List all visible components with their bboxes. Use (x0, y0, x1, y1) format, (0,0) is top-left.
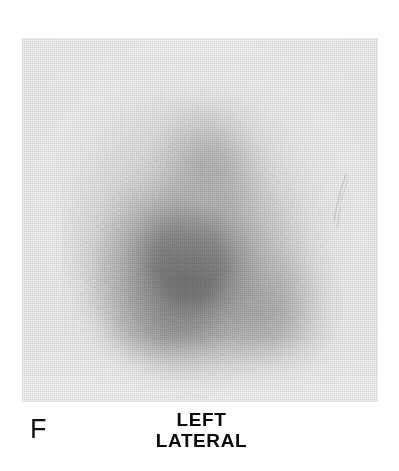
uptake-peak-intensity-region (139, 207, 238, 312)
uptake-apex-region (145, 82, 279, 240)
uptake-hot-core-region (116, 180, 267, 343)
scintigraphy-figure-panel: F LEFT LATERAL (0, 0, 399, 471)
adhesive-label-edge-artifact (84, 396, 209, 402)
emulsion-scratch-artifact (328, 170, 354, 236)
uptake-halo-region (70, 76, 336, 386)
uptake-right-lower-lobe-region (218, 250, 354, 400)
scan-film-area (22, 38, 378, 402)
view-annotation-line-2: LATERAL (4, 430, 399, 451)
uptake-body-region (94, 166, 322, 378)
view-annotation: LEFT LATERAL (0, 409, 399, 451)
photon-speckle-noise (62, 78, 352, 398)
view-annotation-line-1: LEFT (4, 409, 399, 430)
uptake-left-lower-lobe-region (96, 258, 242, 398)
